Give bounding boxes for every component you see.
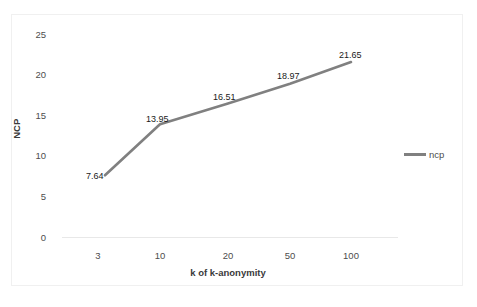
data-label-point-1: 7.64 xyxy=(86,172,104,181)
legend-label-ncp: ncp xyxy=(429,150,444,160)
y-tick-20: 20 xyxy=(16,70,46,80)
chart-container: 25 20 15 10 5 0 NCP 3 10 20 50 100 k of … xyxy=(0,0,477,307)
y-tick-5: 5 xyxy=(16,192,46,202)
data-label-point-4: 18.97 xyxy=(277,72,300,81)
x-axis-title: k of k-anonymity xyxy=(148,268,308,278)
data-label-point-5: 21.65 xyxy=(339,51,362,60)
x-tick-50: 50 xyxy=(270,251,310,261)
x-tick-20: 20 xyxy=(208,251,248,261)
y-tick-25: 25 xyxy=(16,30,46,40)
x-tick-10: 10 xyxy=(140,251,180,261)
x-tick-3: 3 xyxy=(78,251,118,261)
y-axis-title: NCP xyxy=(12,109,22,149)
x-tick-100: 100 xyxy=(331,251,371,261)
series-line-ncp xyxy=(105,62,351,175)
legend-line-swatch-ncp xyxy=(404,153,426,156)
y-tick-10: 10 xyxy=(16,151,46,161)
data-label-point-2: 13.95 xyxy=(146,115,169,124)
data-label-point-3: 16.51 xyxy=(213,93,236,102)
y-tick-0: 0 xyxy=(16,233,46,243)
chart-legend: ncp xyxy=(404,150,444,160)
